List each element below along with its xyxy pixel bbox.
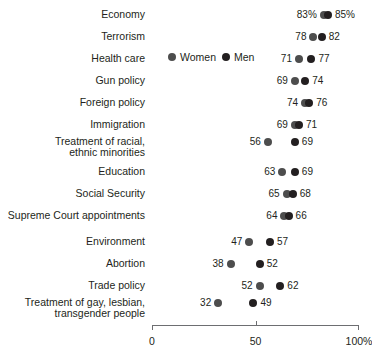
row-plot-area: 5262	[0, 275, 371, 297]
data-point-women	[291, 77, 299, 85]
value-label-low: 64	[266, 211, 277, 221]
value-label-high: 74	[312, 76, 323, 86]
data-point-women	[264, 138, 272, 146]
x-axis-tick	[152, 325, 153, 330]
value-label-high: 49	[260, 298, 271, 308]
value-label-high: 85%	[335, 10, 355, 20]
row-plot-area: 3852	[0, 253, 371, 275]
chart-row: Treatment of racial, ethnic minorities56…	[0, 136, 371, 158]
value-label-low: 69	[277, 120, 288, 130]
chart-row: Treatment of gay, lesbian, transgender p…	[0, 297, 371, 319]
legend-item-men: Men	[222, 51, 254, 63]
data-point-men	[249, 299, 257, 307]
value-label-high: 66	[296, 211, 307, 221]
data-point-men	[301, 77, 309, 85]
row-plot-area: 6568	[0, 183, 371, 205]
value-label-low: 63	[264, 167, 275, 177]
chart-row: Environment4757	[0, 231, 371, 253]
value-label-low: 69	[277, 76, 288, 86]
data-point-men	[289, 190, 297, 198]
data-point-men	[324, 11, 332, 19]
data-point-men	[266, 238, 274, 246]
value-label-low: 56	[250, 137, 261, 147]
legend-label-men: Men	[234, 51, 254, 63]
value-label-low: 74	[287, 98, 298, 108]
chart-row: Supreme Court appointments6466	[0, 205, 371, 227]
value-label-high: 82	[329, 32, 340, 42]
value-label-high: 71	[306, 120, 317, 130]
data-point-men	[291, 168, 299, 176]
chart-row: Education6369	[0, 161, 371, 183]
data-point-men	[285, 212, 293, 220]
chart-legend: WomenMen	[0, 51, 371, 67]
row-plot-area: 83%85%	[0, 4, 371, 26]
value-label-low: 78	[295, 32, 306, 42]
x-axis-tick-label: 0	[149, 335, 155, 347]
row-plot-area: 6369	[0, 161, 371, 183]
chart-row: Gun policy6974	[0, 70, 371, 92]
chart-row: Foreign policy7476	[0, 92, 371, 114]
data-point-women	[227, 260, 235, 268]
data-point-women	[309, 33, 317, 41]
data-point-men	[295, 121, 303, 129]
value-label-high: 69	[302, 167, 313, 177]
row-plot-area: 6466	[0, 205, 371, 227]
chart-row: Abortion3852	[0, 253, 371, 275]
value-label-low: 38	[213, 259, 224, 269]
data-point-women	[278, 168, 286, 176]
chart-row: Economy83%85%	[0, 4, 371, 26]
row-plot-area: 3249	[0, 297, 371, 319]
data-point-women	[245, 238, 253, 246]
data-point-men	[276, 282, 284, 290]
value-label-high: 57	[277, 237, 288, 247]
value-label-low: 52	[242, 281, 253, 291]
data-point-men	[318, 33, 326, 41]
data-point-men	[256, 260, 264, 268]
legend-dot-men-icon	[222, 53, 230, 61]
data-point-men	[291, 138, 299, 146]
value-label-low: 65	[268, 189, 279, 199]
value-label-low: 83%	[297, 10, 317, 20]
legend-dot-women-icon	[168, 53, 176, 61]
row-plot-area: 5669	[0, 136, 371, 158]
legend-label-women: Women	[180, 51, 216, 63]
chart-row: Social Security6568	[0, 183, 371, 205]
chart-row: Immigration6971	[0, 114, 371, 136]
row-plot-area: 7882	[0, 26, 371, 48]
x-axis: 050100%	[0, 325, 371, 358]
row-plot-area: 6974	[0, 70, 371, 92]
value-label-low: 32	[200, 298, 211, 308]
data-point-women	[256, 282, 264, 290]
chart-row: Terrorism7882	[0, 26, 371, 48]
x-axis-tick-label: 100%	[346, 335, 372, 347]
value-label-high: 62	[287, 281, 298, 291]
value-label-low: 47	[231, 237, 242, 247]
data-point-men	[305, 99, 313, 107]
value-label-high: 76	[316, 98, 327, 108]
data-point-women	[214, 299, 222, 307]
x-axis-tick-label: 50	[250, 335, 262, 347]
x-axis-tick	[256, 321, 257, 326]
chart-row: Trade policy5262	[0, 275, 371, 297]
value-label-high: 68	[300, 189, 311, 199]
value-label-high: 52	[267, 259, 278, 269]
x-axis-tick	[358, 325, 359, 330]
value-label-high: 69	[302, 137, 313, 147]
row-plot-area: 7476	[0, 92, 371, 114]
legend-item-women: Women	[168, 51, 216, 63]
row-plot-area: 6971	[0, 114, 371, 136]
row-plot-area: 4757	[0, 231, 371, 253]
